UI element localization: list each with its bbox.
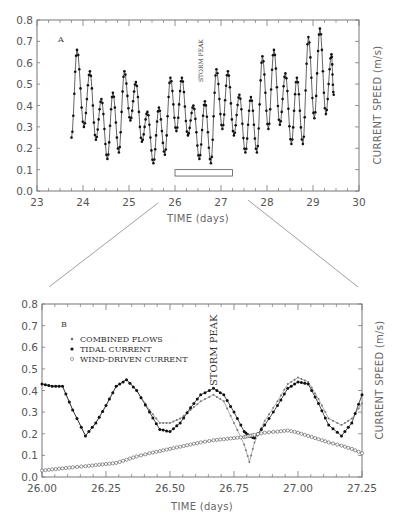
data-point [300,378,302,380]
data-point [297,380,300,383]
data-point [79,87,82,90]
data-point [292,126,295,129]
data-point [54,468,57,471]
data-point [122,380,125,383]
data-point [74,71,77,74]
data-point [268,122,271,125]
data-point [200,143,203,146]
data-point [87,430,90,433]
data-point [207,131,210,134]
data-point [233,411,236,414]
data-point [265,110,268,113]
data-point [247,455,249,457]
data-point [186,130,189,133]
data-point [230,415,232,417]
data-point [360,452,363,455]
data-point [321,405,323,407]
data-point [252,448,254,450]
zoom-connector-left [49,203,158,287]
data-point [290,430,293,433]
data-point [212,439,215,442]
data-point [315,95,318,98]
data-point [208,396,210,398]
data-point [326,109,329,112]
data-point [94,421,97,424]
data-point [309,56,312,59]
data-point [303,116,306,119]
data-point [85,112,88,115]
data-point [112,91,115,94]
data-point [311,387,313,389]
data-point [162,449,165,452]
panel-b-frame [42,304,362,477]
x-tick-label: 27.00 [283,482,313,494]
data-point [91,426,94,429]
legend-label: TIDAL CURRENT [80,345,152,354]
y-tick-label: 0.8 [21,298,38,310]
data-point [286,429,289,432]
data-point [103,128,106,131]
data-point [172,447,175,450]
series-line [42,378,362,462]
data-point [84,465,87,468]
panel-b-y-tick-labels: 0.00.10.20.30.40.50.60.70.8 [21,298,38,483]
data-point [158,106,161,109]
data-point [170,80,173,83]
data-point [316,72,319,75]
data-point [78,68,81,71]
data-point [182,444,185,447]
data-point [108,398,111,401]
data-point [296,431,299,434]
data-point [144,118,147,121]
data-point [336,443,339,446]
data-point [162,422,164,424]
data-point [307,434,310,437]
data-point [195,131,198,134]
x-tick-label: 30 [352,196,365,208]
data-point [198,158,201,161]
data-point [324,416,327,419]
data-point [162,429,165,432]
data-point [95,138,98,141]
panel-b-series [40,377,363,473]
data-point [164,153,167,156]
panel-a-x-tick-labels: 2324252627282930 [30,196,365,208]
data-point [224,99,227,102]
data-point [271,68,274,71]
data-point [209,158,212,161]
data-point [318,398,320,400]
data-point [218,98,221,101]
data-point [340,444,343,447]
y-tick-label: 0.5 [21,363,38,375]
data-point [297,377,299,379]
data-point [147,114,150,117]
data-point [72,114,75,117]
data-point [325,113,328,116]
y-tick-label: 0.4 [16,100,33,112]
data-point [347,426,350,429]
data-point [118,460,121,463]
data-point [94,464,97,467]
data-point [298,93,301,96]
data-point [143,126,146,129]
data-point [104,462,107,465]
data-point [163,150,166,153]
data-point [189,119,192,122]
data-point [274,54,277,57]
data-point [240,108,243,111]
data-point [236,104,239,107]
data-point [332,427,335,430]
data-point [273,49,276,52]
data-point [68,401,71,404]
panel-a-y-tick-labels: 0.00.10.20.30.40.50.60.70.8 [16,14,33,197]
legend-label: COMBINED FLOWS [80,335,163,344]
data-point [350,447,353,450]
data-point [137,96,140,99]
data-point [208,389,211,392]
data-point [228,74,231,77]
data-point [222,393,225,396]
series-line [42,380,362,438]
data-point [58,467,61,470]
y-tick-label: 0.1 [21,449,38,461]
data-point [236,417,239,420]
